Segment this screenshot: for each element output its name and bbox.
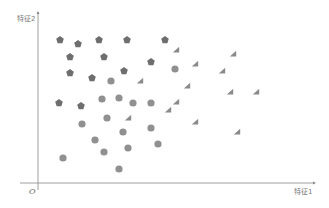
circle-marker: [147, 99, 154, 106]
pentagon-marker: [95, 36, 103, 43]
triangle-marker: [192, 61, 198, 67]
triangle-marker: [137, 78, 143, 84]
triangle-marker: [125, 115, 131, 121]
circle-marker: [115, 94, 122, 101]
x-axis-label: 特征1: [294, 187, 312, 196]
triangle-marker: [173, 47, 179, 53]
circle-marker: [115, 165, 122, 172]
pentagon-marker: [77, 102, 85, 109]
y-axis-arrow-icon: [37, 11, 40, 14]
pentagon-marker: [120, 67, 128, 74]
circle-marker: [103, 114, 110, 121]
pentagon-marker: [66, 69, 74, 76]
axes: [20, 11, 316, 190]
y-axis-label: 特征2: [17, 14, 35, 23]
circle-marker: [59, 154, 66, 161]
circle-marker: [171, 65, 178, 72]
circle-marker: [129, 99, 136, 106]
triangle-marker: [165, 107, 171, 113]
pentagon-marker: [123, 36, 131, 43]
circle-marker: [91, 136, 98, 143]
triangle-marker: [253, 89, 259, 95]
triangle-marker: [184, 83, 190, 89]
triangle-marker: [192, 119, 198, 125]
pentagon-marker: [74, 40, 82, 47]
pentagon-marker: [100, 53, 108, 60]
scatter-chart: 特征2 特征1 O: [0, 0, 329, 208]
circle-marker: [100, 148, 107, 155]
pentagon-marker: [56, 36, 64, 43]
circle-marker: [98, 95, 105, 102]
origin-label: O: [29, 187, 36, 196]
triangle-marker: [227, 89, 233, 95]
circle-marker: [124, 144, 131, 151]
data-points: [55, 36, 259, 173]
triangle-marker: [219, 68, 225, 74]
triangle-marker: [173, 99, 179, 105]
triangle-marker: [234, 129, 240, 135]
pentagon-marker: [88, 74, 96, 81]
pentagon-marker: [66, 53, 74, 60]
pentagon-marker: [147, 58, 155, 65]
circle-marker: [119, 128, 126, 135]
circle-marker: [107, 77, 114, 84]
pentagon-marker: [161, 36, 169, 43]
triangle-marker: [230, 51, 236, 57]
circle-marker: [147, 124, 154, 131]
circle-marker: [154, 140, 161, 147]
x-axis-arrow-icon: [313, 182, 316, 185]
pentagon-marker: [55, 99, 63, 106]
circle-marker: [78, 120, 85, 127]
